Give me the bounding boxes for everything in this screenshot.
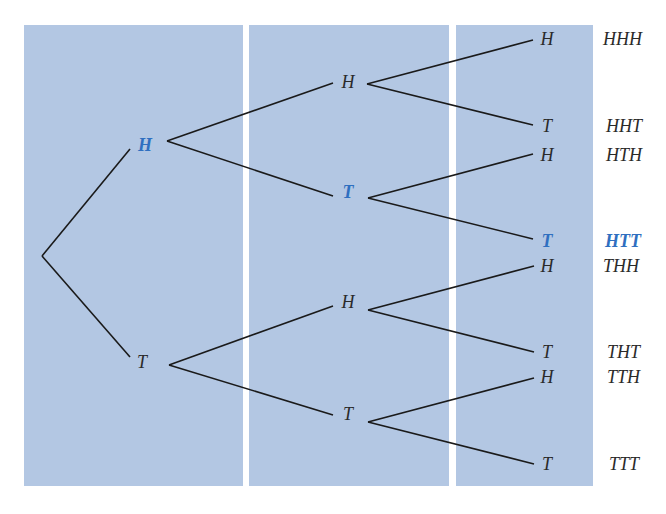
node-third-HTT: T bbox=[542, 232, 553, 250]
branch-root-T bbox=[42, 256, 130, 357]
tree-diagram bbox=[0, 0, 666, 514]
outcome-TTH: TTH bbox=[607, 368, 640, 386]
node-third-THH: H bbox=[541, 257, 554, 275]
outcome-TTT: TTT bbox=[609, 455, 639, 473]
branch-T-T bbox=[169, 365, 333, 415]
branch-TH-T bbox=[368, 310, 534, 352]
node-third-HHT: T bbox=[542, 117, 552, 135]
outcome-HHH: HHH bbox=[603, 30, 642, 48]
branch-root-H bbox=[42, 149, 130, 256]
node-third-HTH: H bbox=[541, 146, 554, 164]
branch-TH-H bbox=[368, 266, 534, 310]
node-first-T: T bbox=[137, 353, 147, 371]
branch-H-T bbox=[167, 141, 333, 196]
node-first-H: H bbox=[138, 136, 152, 154]
branch-H-H bbox=[167, 83, 333, 141]
node-third-TTH: H bbox=[541, 368, 554, 386]
node-second-HH: H bbox=[342, 73, 355, 91]
branch-HT-T bbox=[368, 198, 533, 239]
branch-T-H bbox=[169, 306, 333, 365]
branch-TT-T bbox=[368, 422, 534, 464]
branch-HT-H bbox=[368, 154, 533, 198]
branch-TT-H bbox=[368, 378, 534, 422]
node-second-HT: T bbox=[343, 183, 354, 201]
node-third-TTT: T bbox=[542, 455, 552, 473]
branch-HH-T bbox=[367, 84, 533, 125]
outcome-THH: THH bbox=[603, 257, 639, 275]
outcome-HTH: HTH bbox=[606, 146, 642, 164]
outcome-THT: THT bbox=[607, 343, 640, 361]
node-second-TH: H bbox=[342, 293, 355, 311]
node-third-HHH: H bbox=[541, 30, 554, 48]
node-second-TT: T bbox=[343, 405, 353, 423]
branch-HH-H bbox=[367, 40, 533, 84]
node-third-THT: T bbox=[542, 343, 552, 361]
outcome-HTT: HTT bbox=[605, 232, 641, 250]
outcome-HHT: HHT bbox=[606, 117, 642, 135]
tree-branches bbox=[42, 40, 534, 464]
